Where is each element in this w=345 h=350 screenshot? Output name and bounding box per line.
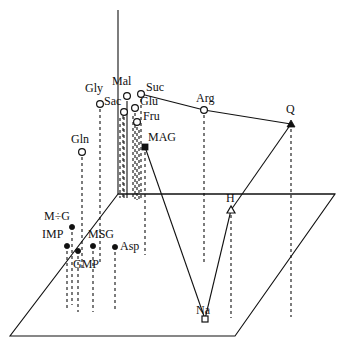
point-gly[interactable] bbox=[97, 101, 104, 108]
label-gln: Gln bbox=[71, 133, 89, 145]
point-asp[interactable] bbox=[112, 244, 117, 249]
point-fru[interactable] bbox=[134, 119, 141, 126]
point-gmp[interactable] bbox=[75, 248, 80, 253]
point-mal[interactable] bbox=[124, 93, 131, 100]
label-arg: Arg bbox=[196, 92, 214, 104]
label-q: Q bbox=[286, 103, 295, 115]
axes-group bbox=[10, 10, 335, 336]
label-gmp: GMP bbox=[73, 258, 99, 270]
point-mg[interactable] bbox=[69, 224, 74, 229]
point-msg[interactable] bbox=[90, 243, 95, 248]
label-gly: Gly bbox=[85, 82, 103, 94]
point-mag[interactable] bbox=[142, 144, 148, 150]
point-h[interactable] bbox=[227, 206, 235, 213]
connection-arg-q bbox=[204, 110, 291, 124]
label-msg: MSG bbox=[88, 228, 114, 240]
label-na: Na bbox=[196, 304, 210, 316]
label-mg: M÷G bbox=[44, 210, 70, 222]
droplines-group bbox=[67, 99, 291, 318]
label-mag: MAG bbox=[148, 131, 176, 143]
label-h: H bbox=[226, 192, 235, 204]
label-mal: Mal bbox=[112, 75, 131, 87]
data-points-group bbox=[64, 91, 295, 322]
label-sac: Sac bbox=[104, 95, 121, 107]
connection-lines-group bbox=[141, 94, 291, 319]
label-imp: IMP bbox=[42, 228, 63, 240]
scatter-plot-3d bbox=[0, 0, 345, 350]
label-suc: Suc bbox=[146, 81, 164, 93]
point-glu[interactable] bbox=[132, 105, 139, 112]
figure-canvas: GlyMalSucSacGluFruGlnMAGArgQHNaM÷GIMPGMP… bbox=[0, 0, 345, 350]
connection-na-mag bbox=[145, 147, 205, 319]
label-fru: Fru bbox=[143, 110, 160, 122]
point-sac[interactable] bbox=[121, 109, 128, 116]
point-arg[interactable] bbox=[201, 107, 208, 114]
label-asp: Asp bbox=[120, 240, 139, 252]
point-gln[interactable] bbox=[79, 149, 86, 156]
label-glu: Glu bbox=[140, 95, 158, 107]
connection-q-h bbox=[231, 124, 291, 210]
point-imp[interactable] bbox=[64, 243, 69, 248]
